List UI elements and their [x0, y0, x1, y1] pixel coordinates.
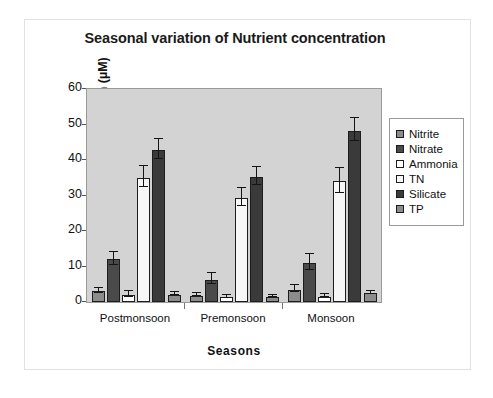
error-bar	[256, 167, 257, 185]
x-category-label: Premonsoon	[184, 312, 282, 324]
error-bar-cap-bottom	[207, 283, 216, 284]
bar-tn-premonsoon	[235, 198, 248, 302]
legend-swatch-icon	[396, 160, 404, 168]
error-bar-cap-bottom	[192, 295, 201, 296]
error-bar-cap-top	[109, 251, 118, 252]
bar-group	[185, 89, 283, 302]
legend-item-ammonia[interactable]: Ammonia	[396, 159, 458, 171]
error-bar-cap-top	[124, 290, 133, 291]
legend-swatch-icon	[396, 190, 404, 198]
x-axis-separator	[184, 303, 185, 309]
legend: NitriteNitrateAmmoniaTNSilicateTP	[389, 118, 464, 226]
bar-nitrite-premonsoon	[190, 296, 203, 302]
legend-label: Nitrate	[409, 144, 443, 156]
legend-item-silicate[interactable]: Silicate	[396, 189, 458, 201]
bar-nitrite-monsoon	[288, 290, 301, 302]
error-bar-cap-bottom	[139, 186, 148, 187]
bar-tp-premonsoon	[266, 297, 279, 302]
y-tick-label: 20	[52, 223, 82, 236]
error-bar-cap-bottom	[320, 296, 329, 297]
bar-tn-monsoon	[333, 181, 346, 302]
legend-swatch-icon	[396, 145, 404, 153]
error-bar-cap-bottom	[170, 294, 179, 295]
error-bar-cap-top	[290, 284, 299, 285]
error-bar-cap-bottom	[366, 293, 375, 294]
error-bar-cap-top	[335, 167, 344, 168]
bar-ammonia-monsoon	[318, 297, 331, 302]
bar-tn-postmonsoon	[137, 178, 150, 302]
y-tick-label: 50	[52, 117, 82, 130]
error-bar	[339, 168, 340, 193]
error-bar-cap-top	[366, 290, 375, 291]
error-bar	[241, 188, 242, 206]
legend-label: Ammonia	[409, 159, 458, 171]
y-tick-label: 30	[52, 188, 82, 201]
error-bar-cap-top	[305, 253, 314, 254]
x-axis-separator	[282, 303, 283, 309]
y-tick-label: 60	[52, 81, 82, 94]
error-bar-cap-bottom	[290, 291, 299, 292]
error-bar	[354, 118, 355, 141]
x-category-label: Monsoon	[282, 312, 380, 324]
y-tick-label: 40	[52, 152, 82, 165]
error-bar-cap-top	[268, 294, 277, 295]
error-bar-cap-top	[170, 291, 179, 292]
legend-item-nitrate[interactable]: Nitrate	[396, 144, 458, 156]
error-bar-cap-top	[222, 294, 231, 295]
bar-silicate-monsoon	[348, 131, 361, 302]
error-bar-cap-top	[154, 138, 163, 139]
error-bar-cap-bottom	[154, 158, 163, 159]
error-bar-cap-bottom	[268, 296, 277, 297]
error-bar-cap-top	[192, 292, 201, 293]
error-bar-cap-bottom	[222, 297, 231, 298]
bar-group	[283, 89, 381, 302]
bar-tp-monsoon	[364, 293, 377, 302]
error-bar	[143, 166, 144, 187]
error-bar	[158, 139, 159, 159]
bar-silicate-postmonsoon	[152, 150, 165, 302]
legend-label: TN	[409, 174, 424, 186]
bar-ammonia-postmonsoon	[122, 295, 135, 302]
error-bar-cap-bottom	[109, 264, 118, 265]
legend-item-tn[interactable]: TN	[396, 174, 458, 186]
legend-label: Nitrite	[409, 129, 439, 141]
chart-page: Seasonal variation of Nutrient concentra…	[0, 0, 493, 398]
bar-nitrate-premonsoon	[205, 280, 218, 302]
error-bar-cap-bottom	[94, 292, 103, 293]
error-bar-cap-top	[320, 293, 329, 294]
error-bar-cap-top	[94, 287, 103, 288]
error-bar-cap-bottom	[335, 192, 344, 193]
error-bar	[309, 254, 310, 270]
error-bar-cap-top	[350, 117, 359, 118]
legend-label: Silicate	[409, 189, 446, 201]
x-category-label: Postmonsoon	[86, 312, 184, 324]
y-tick-label: 10	[52, 259, 82, 272]
error-bar-cap-bottom	[252, 184, 261, 185]
error-bar-cap-top	[237, 187, 246, 188]
error-bar-cap-top	[252, 166, 261, 167]
legend-swatch-icon	[396, 205, 404, 213]
error-bar-cap-bottom	[305, 269, 314, 270]
chart-title: Seasonal variation of Nutrient concentra…	[0, 30, 470, 46]
bar-nitrate-monsoon	[303, 263, 316, 302]
bar-nitrite-postmonsoon	[92, 291, 105, 302]
error-bar-cap-top	[139, 165, 148, 166]
legend-label: TP	[409, 204, 424, 216]
x-axis-title: Seasons	[86, 344, 382, 358]
bar-nitrate-postmonsoon	[107, 259, 120, 302]
legend-swatch-icon	[396, 175, 404, 183]
error-bar-cap-bottom	[237, 205, 246, 206]
y-tick-label: 0	[52, 294, 82, 307]
error-bar-cap-bottom	[350, 140, 359, 141]
plot-area	[86, 88, 382, 303]
bar-tp-postmonsoon	[168, 295, 181, 302]
legend-item-nitrite[interactable]: Nitrite	[396, 129, 458, 141]
legend-swatch-icon	[396, 130, 404, 138]
bar-ammonia-premonsoon	[220, 297, 233, 302]
legend-item-tp[interactable]: TP	[396, 204, 458, 216]
error-bar-cap-top	[207, 272, 216, 273]
error-bar-cap-bottom	[124, 296, 133, 297]
bar-group	[87, 89, 185, 302]
bar-silicate-premonsoon	[250, 177, 263, 302]
